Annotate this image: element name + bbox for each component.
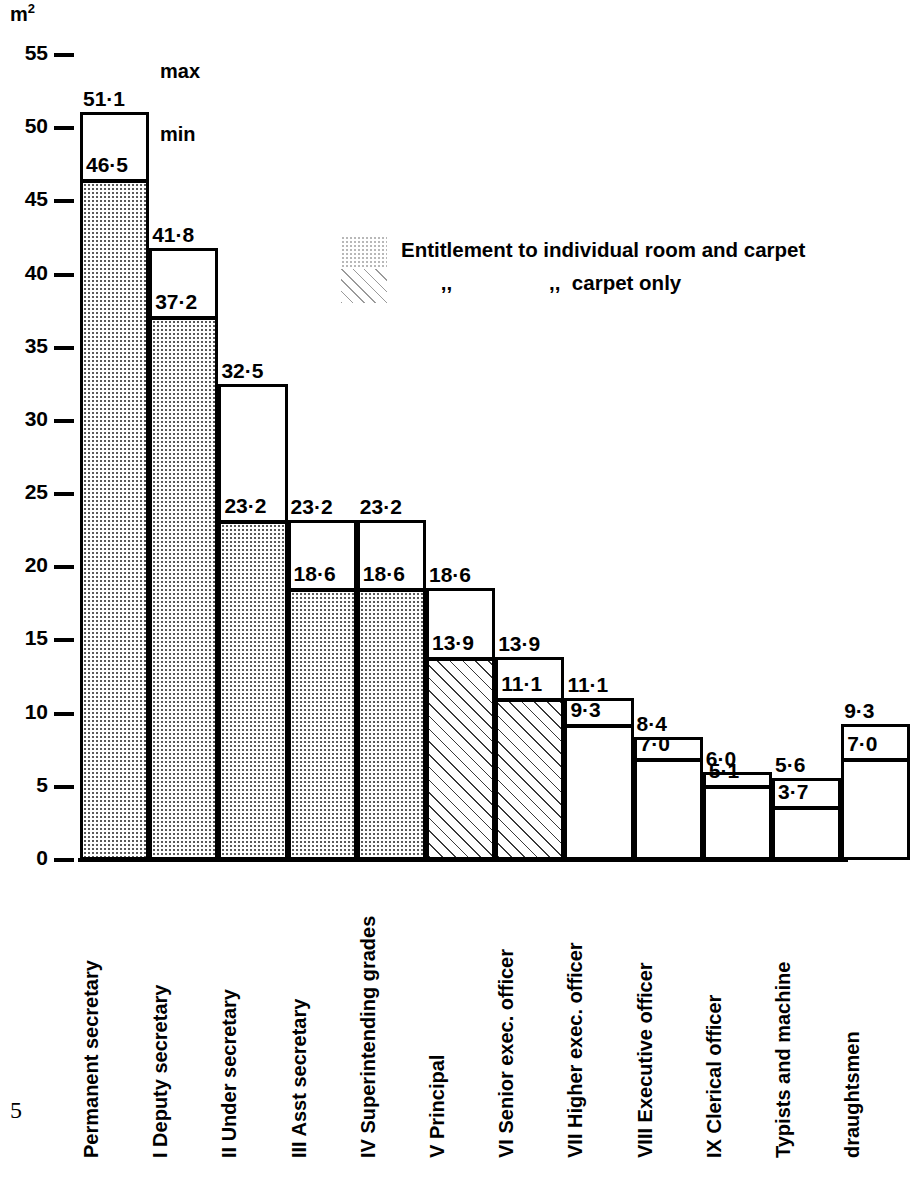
y-axis-tick-label: 35 [25, 335, 48, 356]
bar-max-value-label: 5·6 [775, 754, 805, 775]
y-axis-tick-label: 50 [25, 115, 48, 136]
bar-min-segment [218, 520, 287, 860]
y-axis-tick-mark [54, 638, 74, 642]
category-label: II Under secretary [219, 989, 239, 1158]
bar-min-value-label: 23·2 [224, 495, 266, 516]
bar-min-segment [357, 588, 426, 860]
bar-min-segment [634, 758, 703, 860]
bar: 18·613·9 [426, 588, 495, 860]
bar-max-value-label: 32·5 [221, 360, 263, 381]
bar-min-value-label: 7·0 [847, 733, 877, 754]
bar-min-value-label: 13·9 [432, 632, 474, 653]
bar-max-value-label: 11·1 [567, 674, 608, 695]
y-axis-tick-label: 0 [36, 847, 48, 868]
y-axis-tick-label: 15 [25, 627, 48, 648]
x-axis-category-labels: Permanent secretaryI Deputy secretaryII … [80, 876, 846, 1176]
bar-min-segment [772, 806, 841, 860]
bar-max-value-label: 9·3 [844, 700, 874, 721]
bar-max-value-label: 51·1 [83, 88, 125, 109]
bar-max-value-label: 23·2 [360, 496, 402, 517]
category-label: Typists and machine [773, 962, 793, 1158]
category-label: IV Superintending grades [358, 916, 378, 1158]
bar: 5·63·7 [772, 778, 841, 860]
bar: 8·47·0 [634, 737, 703, 860]
bar-max-value-label: 41·8 [152, 224, 194, 245]
bar-min-value-label: 3·7 [778, 781, 808, 802]
y-axis-tick-mark [54, 346, 74, 350]
bar: 51·146·5 [80, 112, 149, 860]
page-number: 5 [10, 1098, 22, 1122]
bar-min-value-label: 18·6 [294, 563, 336, 584]
bar-min-segment [149, 316, 218, 860]
y-axis-tick-label: 20 [25, 554, 48, 575]
y-axis-tick-mark [54, 565, 74, 569]
category-label: VI Senior exec. officer [496, 949, 516, 1158]
bar-min-value-label: 46·5 [86, 154, 128, 175]
bar-max-value-label: 18·6 [429, 564, 471, 585]
bar-min-value-label: 18·6 [363, 563, 405, 584]
y-axis-tick-mark [54, 785, 74, 789]
y-axis-tick-mark [54, 53, 74, 57]
unit-exponent: 2 [28, 1, 35, 16]
y-axis-tick-mark [54, 492, 74, 496]
category-label: IX Clerical officer [704, 995, 724, 1158]
y-axis-tick-label: 45 [25, 188, 48, 209]
bar: 23·218·6 [357, 520, 426, 860]
bar-min-segment [288, 588, 357, 860]
bar: 6·05·1 [703, 772, 772, 860]
y-axis-unit-label: m2 [10, 2, 35, 24]
bar-min-segment [703, 785, 772, 860]
bar-min-value-label: 9·3 [570, 699, 600, 720]
bar-min-segment [564, 724, 633, 860]
unit-base: m [10, 3, 28, 25]
y-axis-tick-label: 30 [25, 408, 48, 429]
category-label: draughtsmen [842, 1031, 862, 1158]
bar-min-segment [426, 657, 495, 860]
y-axis-tick-mark [54, 199, 74, 203]
bar-min-value-label: 7·0 [640, 733, 670, 754]
category-label: VIII Executive officer [635, 962, 655, 1158]
bar-max-value-label: 13·9 [498, 633, 540, 654]
category-label: VII Higher exec. officer [565, 942, 585, 1158]
bar: 11·19·3 [564, 698, 633, 860]
bar: 9·37·0 [841, 724, 910, 860]
category-label: III Asst secretary [289, 999, 309, 1158]
y-axis-tick-mark [54, 273, 74, 277]
bar-min-segment [841, 758, 910, 860]
y-axis-tick-mark [54, 712, 74, 716]
bar: 32·523·2 [218, 384, 287, 860]
category-label: V Principal [427, 1055, 447, 1158]
bar-min-value-label: 37·2 [155, 291, 197, 312]
y-axis-tick-mark [54, 858, 74, 862]
bar-min-segment [80, 179, 149, 860]
bar-max-value-label: 23·2 [291, 496, 333, 517]
y-axis-tick-label: 10 [25, 701, 48, 722]
bar-max-value-label: 8·4 [637, 713, 667, 734]
category-label: I Deputy secretary [150, 985, 170, 1158]
y-axis-tick-label: 55 [25, 42, 48, 63]
bar-min-value-label: 5·1 [709, 760, 739, 781]
category-label: Permanent secretary [81, 960, 101, 1158]
y-axis-tick-mark [54, 419, 74, 423]
y-axis-tick-label: 5 [36, 774, 48, 795]
bar: 23·218·6 [288, 520, 357, 860]
bar: 41·837·2 [149, 248, 218, 860]
y-axis-tick-label: 25 [25, 481, 48, 502]
bar-min-value-label: 11·1 [501, 673, 542, 694]
y-axis-tick-mark [54, 126, 74, 130]
bar-min-segment [495, 698, 564, 860]
y-axis-tick-label: 40 [25, 262, 48, 283]
plot-area: 51·146·541·837·232·523·223·218·623·218·6… [80, 40, 846, 862]
bar: 13·911·1 [495, 657, 564, 860]
